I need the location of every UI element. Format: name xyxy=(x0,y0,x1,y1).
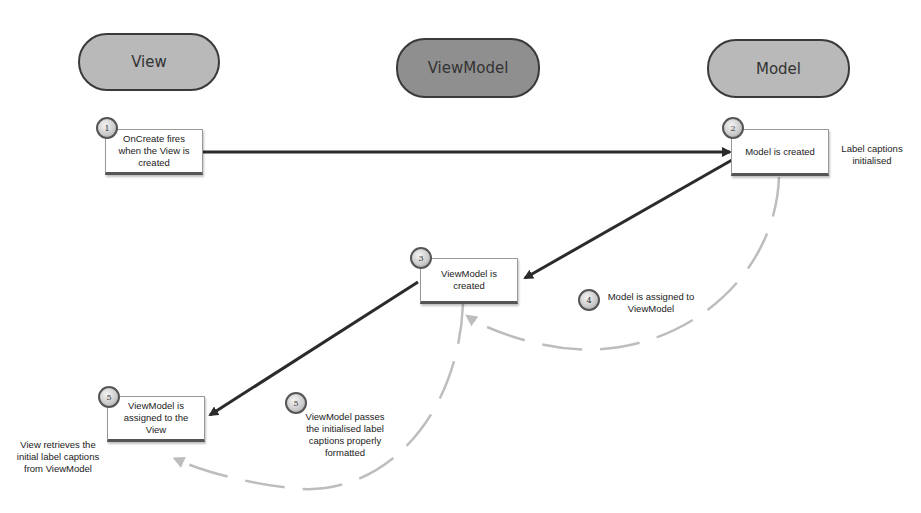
view-note: View retrieves the initial label caption… xyxy=(14,439,102,475)
step-5b-text: ViewModel passes the initialised label c… xyxy=(300,411,390,459)
step-2-text: Model is created xyxy=(745,146,815,158)
lane-viewmodel: ViewModel xyxy=(396,38,540,98)
step-5-badge: 5 xyxy=(98,386,120,408)
lane-viewmodel-label: ViewModel xyxy=(428,59,509,77)
step-4-badge: 4 xyxy=(578,289,600,311)
lane-view-label: View xyxy=(131,53,167,71)
step-3-box: ViewModel is created xyxy=(420,258,518,304)
lane-model-label: Model xyxy=(756,60,801,78)
lane-model: Model xyxy=(707,39,850,98)
step-2-box: Model is created xyxy=(731,129,829,176)
arrow-viewmodel-to-view xyxy=(210,282,418,415)
step-5-box: ViewModel is assigned to the View xyxy=(107,396,205,442)
arrow-model-to-viewmodel xyxy=(525,160,732,278)
step-1-box: OnCreate fires when the View is created xyxy=(105,129,203,175)
step-1-badge: 1 xyxy=(96,117,118,139)
step-2-badge: 2 xyxy=(722,117,744,139)
step-4-text: Model is assigned to ViewModel xyxy=(606,291,696,315)
step-3-badge: 3 xyxy=(410,247,432,269)
dashed-arrow-viewmodel-passes xyxy=(178,304,463,489)
step-3-text: ViewModel is created xyxy=(427,268,511,292)
step-5-text: ViewModel is assigned to the View xyxy=(114,400,198,436)
model-note: Label captions initialised xyxy=(832,143,912,167)
lane-view: View xyxy=(78,33,220,91)
step-1-text: OnCreate fires when the View is created xyxy=(112,133,196,169)
